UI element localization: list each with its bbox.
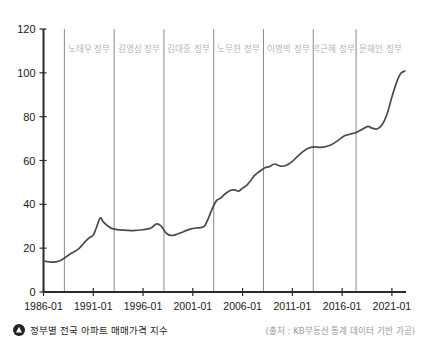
- era-label: 노무현 정부: [217, 44, 260, 54]
- era-label: 김대중 정부: [167, 43, 210, 54]
- apartment-price-index-line-chart: 노태우 정부김영삼 정부김대중 정부노무현 정부이명박 정부박근혜 정부문재인 …: [0, 0, 425, 341]
- x-tick-label: 2011-01: [273, 300, 311, 312]
- x-tick-label: 2021-01: [373, 300, 412, 312]
- x-axis: 1986-011991-011996-012001-012006-012011-…: [24, 288, 411, 312]
- era-label-group: 노태우 정부김영삼 정부김대중 정부노무현 정부이명박 정부박근혜 정부문재인 …: [68, 43, 402, 54]
- era-label: 노태우 정부: [68, 44, 111, 54]
- y-tick-label: 120: [17, 23, 35, 35]
- x-tick-label: 1986-01: [24, 300, 63, 312]
- y-tick-group: 020406080100120: [17, 23, 46, 298]
- era-label: 김영삼 정부: [118, 43, 161, 54]
- price-index-line: [44, 71, 405, 262]
- source-label: (출처 : KB부동산 통계 데이터 기반 가공): [265, 324, 415, 336]
- y-axis: 020406080100120: [17, 23, 46, 298]
- x-tick-label: 2001-01: [174, 300, 213, 312]
- triangle-up-circle-icon: [13, 324, 25, 336]
- chart-figure: 노태우 정부김영삼 정부김대중 정부노무현 정부이명박 정부박근혜 정부문재인 …: [0, 0, 425, 341]
- x-tick-label: 1991-01: [74, 300, 113, 312]
- era-label: 문재인 정부: [359, 44, 402, 54]
- figure-footer: 정부별 전국 아파트 매매가격 지수 (출처 : KB부동산 통계 데이터 기반…: [0, 318, 425, 341]
- era-label: 이명박 정부: [267, 44, 310, 54]
- figure-caption: 정부별 전국 아파트 매매가격 지수: [13, 323, 168, 337]
- y-tick-label: 80: [23, 111, 35, 123]
- era-label: 박근혜 정부: [312, 44, 355, 54]
- caption-label: 정부별 전국 아파트 매매가격 지수: [30, 323, 168, 337]
- y-tick-label: 60: [23, 155, 35, 167]
- y-tick-label: 40: [23, 198, 35, 210]
- era-divider-lines: [64, 29, 356, 292]
- y-tick-label: 0: [29, 286, 35, 298]
- x-tick-label: 1996-01: [124, 300, 163, 312]
- x-tick-label: 2016-01: [323, 300, 362, 312]
- y-tick-label: 20: [23, 242, 35, 254]
- y-tick-label: 100: [17, 67, 35, 79]
- x-tick-label: 2006-01: [223, 300, 262, 312]
